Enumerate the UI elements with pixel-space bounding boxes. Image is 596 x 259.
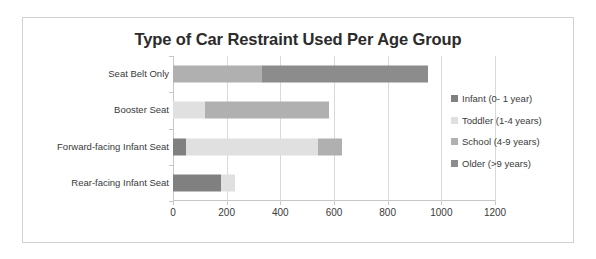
bar-segment[interactable] [221, 174, 234, 191]
legend-swatch-icon [451, 160, 458, 167]
bar-row [173, 129, 495, 165]
legend-label: Infant (0- 1 year) [462, 94, 532, 104]
x-axis-tick-label: 1200 [484, 207, 506, 218]
legend-item[interactable]: Infant (0- 1 year) [451, 94, 571, 104]
bar-row [173, 165, 495, 201]
bar-segment[interactable] [173, 138, 186, 155]
bar-row [173, 92, 495, 128]
legend-swatch-icon [451, 95, 458, 102]
legend-label: School (4-9 years) [462, 137, 540, 147]
legend-label: Toddler (1-4 years) [462, 116, 542, 126]
stacked-bar[interactable] [173, 102, 329, 119]
x-axis-tick-label: 400 [272, 207, 289, 218]
bar-segment[interactable] [205, 102, 328, 119]
chart-legend: Infant (0- 1 year)Toddler (1-4 years)Sch… [451, 94, 571, 180]
y-axis-label: Forward-facing Infant Seat [57, 142, 169, 152]
x-axis-tick-labels: 020040060080010001200 [173, 201, 495, 223]
stacked-bar[interactable] [173, 174, 235, 191]
bar-row [173, 56, 495, 92]
x-axis-tick-label: 800 [379, 207, 396, 218]
stacked-bar[interactable] [173, 66, 428, 83]
y-axis-category-labels: Rear-facing Infant SeatForward-facing In… [23, 56, 169, 201]
y-axis-label: Booster Seat [114, 105, 169, 115]
bar-segment[interactable] [186, 138, 317, 155]
y-axis-label: Seat Belt Only [108, 69, 169, 79]
chart-container: Type of Car Restraint Used Per Age Group… [22, 17, 574, 243]
x-axis-tick-label: 200 [218, 207, 235, 218]
bar-segment[interactable] [318, 138, 342, 155]
bar-segment[interactable] [173, 174, 221, 191]
legend-item[interactable]: School (4-9 years) [451, 137, 571, 147]
x-axis-tick-label: 600 [326, 207, 343, 218]
plot-area [173, 56, 495, 201]
x-tick-mark-1200 [495, 201, 496, 205]
legend-swatch-icon [451, 138, 458, 145]
legend-swatch-icon [451, 117, 458, 124]
legend-label: Older (>9 years) [462, 159, 531, 169]
x-axis-tick-label: 0 [170, 207, 176, 218]
y-axis-label: Rear-facing Infant Seat [71, 178, 169, 188]
bar-segment[interactable] [173, 66, 262, 83]
bar-segment[interactable] [262, 66, 428, 83]
chart-title: Type of Car Restraint Used Per Age Group [23, 30, 573, 49]
bar-segment[interactable] [173, 102, 205, 119]
legend-item[interactable]: Older (>9 years) [451, 159, 571, 169]
x-axis-tick-label: 1000 [430, 207, 452, 218]
legend-item[interactable]: Toddler (1-4 years) [451, 116, 571, 126]
stacked-bar[interactable] [173, 138, 342, 155]
